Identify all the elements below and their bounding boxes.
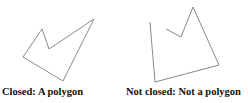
open-polyline-shape	[150, 7, 219, 82]
closed-polygon-shape	[23, 19, 94, 81]
caption-closed-polygon: Closed: A polygon	[2, 86, 83, 98]
caption-not-closed: Not closed: Not a polygon	[126, 86, 241, 98]
